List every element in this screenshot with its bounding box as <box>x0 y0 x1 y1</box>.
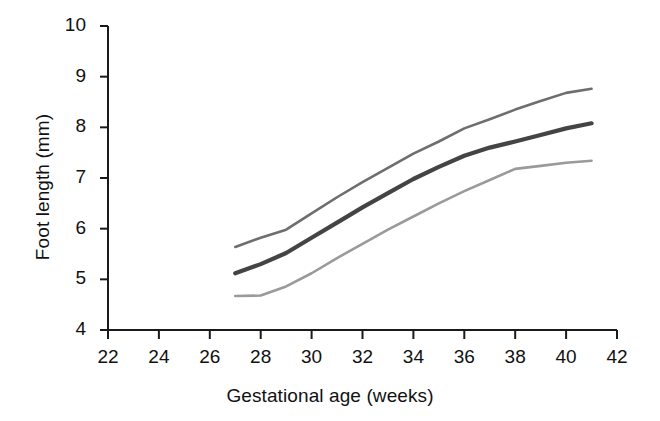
y-tick-label: 9 <box>50 65 86 87</box>
y-tick-label: 7 <box>50 166 86 188</box>
y-tick-label: 8 <box>50 115 86 137</box>
x-tick-label: 36 <box>444 346 484 368</box>
y-tick-label: 6 <box>50 217 86 239</box>
data-series-group <box>235 89 591 296</box>
x-tick-label: 42 <box>597 346 637 368</box>
axis-lines <box>108 26 617 330</box>
series-line-median <box>235 123 591 273</box>
foot-length-growth-chart: Foot length (mm) Gestational age (weeks)… <box>0 0 660 421</box>
x-tick-label: 32 <box>343 346 383 368</box>
y-tick-label: 4 <box>50 318 86 340</box>
x-tick-label: 30 <box>292 346 332 368</box>
x-tick-label: 34 <box>393 346 433 368</box>
y-tick-label: 10 <box>50 14 86 36</box>
x-tick-label: 40 <box>546 346 586 368</box>
y-tick-label: 5 <box>50 267 86 289</box>
x-axis-ticks <box>108 330 617 339</box>
y-axis-ticks <box>100 26 108 330</box>
x-tick-label: 28 <box>241 346 281 368</box>
x-tick-label: 22 <box>88 346 128 368</box>
series-line-upper-centile <box>235 89 591 247</box>
x-tick-label: 24 <box>139 346 179 368</box>
x-tick-label: 26 <box>190 346 230 368</box>
x-tick-label: 38 <box>495 346 535 368</box>
